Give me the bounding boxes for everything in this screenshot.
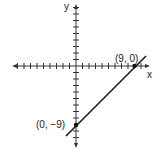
x-axis-right-arrow-icon: [145, 64, 150, 68]
y-axis-ticks: [73, 8, 79, 138]
x-axis-left-arrow-icon: [12, 64, 17, 68]
point-9-0: [132, 64, 136, 68]
coordinate-plane: (9, 0) (0, −9) x y: [0, 0, 163, 155]
point-label-9-0: (9, 0): [115, 53, 138, 64]
point-0-neg9: [74, 123, 78, 127]
y-axis-up-arrow-icon: [74, 4, 78, 9]
x-axis-label: x: [147, 69, 152, 80]
y-axis-down-arrow-icon: [74, 143, 78, 148]
point-label-0-neg9: (0, −9): [36, 119, 65, 130]
y-axis-label: y: [64, 1, 69, 12]
